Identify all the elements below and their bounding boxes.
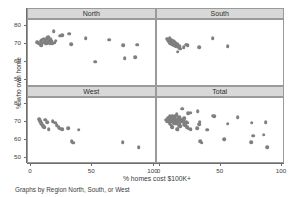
x-tick-label: 50: [210, 167, 230, 174]
data-point: [171, 126, 175, 130]
data-point: [252, 134, 256, 138]
data-point: [198, 45, 202, 49]
x-tick: [159, 163, 160, 166]
data-point: [67, 126, 71, 130]
panel-title-west: West: [27, 86, 156, 97]
data-point: [211, 36, 215, 40]
panel-grid: NorthSouthWestTotal: [27, 8, 284, 163]
data-point: [94, 60, 98, 64]
y-tick-label: 70: [5, 118, 21, 124]
data-point: [122, 43, 126, 47]
data-point: [264, 120, 268, 124]
y-tick: [24, 139, 27, 140]
y-tick: [24, 121, 27, 122]
data-point: [42, 126, 46, 130]
data-point: [69, 43, 73, 47]
plot-area-north: [27, 19, 156, 86]
data-point: [107, 38, 111, 42]
y-axis-line: [26, 8, 27, 163]
data-point: [226, 122, 230, 126]
data-point: [136, 43, 140, 47]
data-point: [205, 128, 209, 132]
data-point: [236, 115, 240, 119]
y-tick-label: 70: [5, 40, 21, 46]
panel-title-south: South: [156, 8, 285, 19]
y-tick: [24, 43, 27, 44]
data-point: [189, 111, 193, 115]
x-tick-label: 100: [271, 167, 289, 174]
y-tick-label: 60: [5, 58, 21, 64]
data-point: [84, 37, 88, 41]
x-tick: [281, 163, 282, 166]
y-tick: [24, 103, 27, 104]
scatter-matrix-figure: % who own home NorthSouthWestTotal % hom…: [0, 0, 289, 197]
y-tick-label: 80: [5, 22, 21, 28]
data-point: [47, 127, 51, 131]
x-axis-line: [27, 163, 284, 164]
x-tick: [220, 163, 221, 166]
y-tick-label: 80: [5, 100, 21, 106]
y-tick-label: 60: [5, 136, 21, 142]
panel-title-total: Total: [156, 86, 285, 97]
data-point: [60, 127, 64, 131]
plot-area-total: [156, 97, 285, 164]
data-point: [198, 120, 202, 124]
y-tick: [24, 157, 27, 158]
data-point: [196, 109, 200, 113]
data-point: [176, 128, 180, 132]
data-point: [226, 45, 230, 49]
data-point: [54, 39, 58, 43]
data-point: [123, 57, 127, 61]
data-point: [262, 133, 266, 137]
data-point: [67, 32, 71, 36]
x-tick: [30, 163, 31, 166]
data-point: [186, 121, 190, 125]
plot-area-west: [27, 97, 156, 164]
data-point: [137, 145, 141, 149]
data-point: [249, 140, 253, 144]
data-point: [180, 107, 184, 111]
data-point: [195, 126, 199, 130]
panel-south: South: [156, 8, 285, 86]
x-tick: [153, 163, 154, 166]
x-tick-label: 0: [20, 167, 40, 174]
data-point: [77, 128, 81, 132]
data-point: [176, 50, 180, 54]
data-point: [265, 145, 269, 149]
data-point: [60, 33, 64, 37]
panel-north: North: [27, 8, 156, 86]
data-point: [250, 121, 254, 125]
data-point: [46, 121, 50, 125]
x-tick: [91, 163, 92, 166]
y-tick-label: 50: [5, 154, 21, 160]
panel-west: West: [27, 86, 156, 164]
x-axis-title: % homes cost $100K+: [28, 175, 286, 182]
data-point: [222, 137, 226, 141]
x-tick-label: 50: [81, 167, 101, 174]
plot-area-south: [156, 19, 285, 86]
data-point: [189, 127, 193, 131]
data-point: [133, 55, 137, 59]
data-point: [121, 140, 125, 144]
data-point: [200, 141, 204, 145]
figure-note: Graphs by Region North, South, or West: [15, 186, 130, 193]
data-point: [186, 43, 190, 47]
y-tick-label: 50: [5, 76, 21, 82]
y-tick: [24, 61, 27, 62]
y-tick: [24, 79, 27, 80]
data-point: [212, 114, 216, 118]
data-point: [72, 141, 76, 145]
y-tick: [24, 25, 27, 26]
x-tick-label: 0: [149, 167, 169, 174]
data-point: [52, 29, 56, 33]
panel-title-north: North: [27, 8, 156, 19]
panel-total: Total: [156, 86, 285, 164]
